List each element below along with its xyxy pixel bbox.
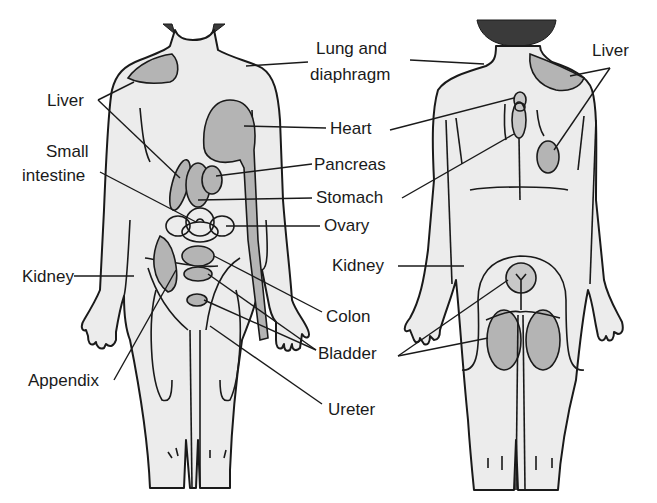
label-bladder: Bladder	[318, 343, 377, 365]
label-liver-front: Liver	[47, 90, 84, 112]
label-ureter: Ureter	[328, 399, 375, 421]
label-heart: Heart	[330, 118, 372, 140]
label-small-intestine-line2: intestine	[22, 165, 85, 187]
label-liver-back: Liver	[592, 40, 629, 62]
label-ovary: Ovary	[324, 215, 369, 237]
label-kidney-front: Kidney	[22, 266, 74, 288]
label-pancreas: Pancreas	[314, 154, 386, 176]
label-lung-diaphragm-line2: diaphragm	[310, 64, 390, 86]
back-body	[405, 20, 623, 490]
label-colon: Colon	[326, 306, 370, 328]
label-kidney-back: Kidney	[332, 255, 384, 277]
label-appendix: Appendix	[28, 370, 99, 392]
label-lung-diaphragm-line1: Lung and	[316, 38, 387, 60]
label-stomach: Stomach	[316, 187, 383, 209]
front-body	[82, 24, 309, 488]
label-small-intestine-line1: Small	[46, 141, 89, 163]
